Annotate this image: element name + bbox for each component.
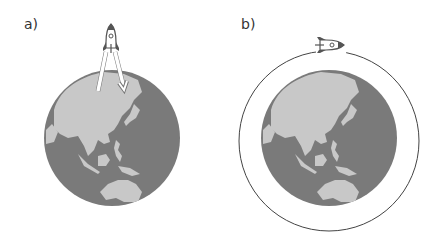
rocket-icon bbox=[103, 24, 119, 53]
diagram-canvas bbox=[0, 0, 437, 237]
earth-globe-a bbox=[44, 70, 180, 206]
orbiting-rocket-icon bbox=[315, 33, 346, 55]
earth-globe-b bbox=[261, 70, 397, 206]
